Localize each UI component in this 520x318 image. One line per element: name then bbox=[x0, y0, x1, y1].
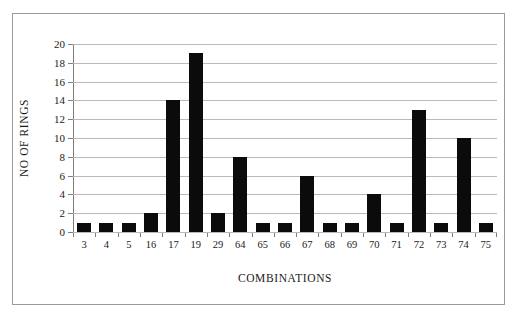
x-tick-mark bbox=[385, 233, 386, 237]
x-tick-label: 71 bbox=[391, 239, 402, 250]
y-tick-mark bbox=[68, 44, 73, 45]
bar bbox=[345, 223, 359, 232]
bar bbox=[479, 223, 493, 232]
gridline bbox=[73, 63, 497, 64]
x-tick-mark bbox=[118, 233, 119, 237]
x-tick-label: 67 bbox=[302, 239, 313, 250]
x-tick-mark bbox=[207, 233, 208, 237]
bar bbox=[211, 213, 225, 232]
chart-figure: NO OF RINGS 02468101214161820 3451617192… bbox=[0, 0, 520, 318]
x-tick-label: 29 bbox=[213, 239, 224, 250]
gridline bbox=[73, 138, 497, 139]
y-tick-label: 0 bbox=[60, 226, 66, 238]
y-tick-mark bbox=[68, 138, 73, 139]
y-tick-label: 14 bbox=[54, 94, 65, 106]
y-tick-label: 10 bbox=[54, 132, 65, 144]
bar bbox=[256, 223, 270, 232]
gridline bbox=[73, 119, 497, 120]
bar bbox=[323, 223, 337, 232]
x-tick-mark bbox=[408, 233, 409, 237]
y-axis-title: NO OF RINGS bbox=[18, 99, 30, 177]
bar bbox=[278, 223, 292, 232]
bar bbox=[77, 223, 91, 232]
x-tick-label: 69 bbox=[347, 239, 358, 250]
x-tick-label: 4 bbox=[104, 239, 109, 250]
x-tick-mark bbox=[274, 233, 275, 237]
x-tick-label: 66 bbox=[280, 239, 291, 250]
y-tick-mark bbox=[68, 194, 73, 195]
bar bbox=[390, 223, 404, 232]
y-tick-label: 2 bbox=[60, 207, 66, 219]
gridline bbox=[73, 100, 497, 101]
x-tick-mark bbox=[73, 233, 74, 237]
x-axis-ticks-and-labels: 34516171929646566676869707172737475 bbox=[73, 233, 497, 257]
bar bbox=[189, 53, 203, 232]
y-tick-mark bbox=[68, 213, 73, 214]
x-tick-mark bbox=[252, 233, 253, 237]
bar bbox=[99, 223, 113, 232]
x-tick-mark bbox=[475, 233, 476, 237]
bar bbox=[434, 223, 448, 232]
x-axis-title: COMBINATIONS bbox=[73, 272, 497, 284]
bar bbox=[144, 213, 158, 232]
y-tick-label: 16 bbox=[54, 76, 65, 88]
bar bbox=[233, 157, 247, 232]
x-tick-mark bbox=[185, 233, 186, 237]
x-tick-mark bbox=[95, 233, 96, 237]
bar bbox=[300, 176, 314, 232]
x-tick-label: 17 bbox=[168, 239, 179, 250]
bar bbox=[412, 110, 426, 232]
x-tick-mark bbox=[296, 233, 297, 237]
x-tick-mark bbox=[229, 233, 230, 237]
x-tick-mark bbox=[140, 233, 141, 237]
x-tick-label: 3 bbox=[82, 239, 87, 250]
x-tick-label: 75 bbox=[481, 239, 492, 250]
x-tick-label: 19 bbox=[190, 239, 201, 250]
x-tick-mark bbox=[430, 233, 431, 237]
x-tick-mark bbox=[452, 233, 453, 237]
y-tick-label: 4 bbox=[60, 188, 66, 200]
gridline bbox=[73, 44, 497, 45]
plot-area: 02468101214161820 bbox=[73, 44, 497, 232]
x-tick-label: 72 bbox=[414, 239, 425, 250]
x-tick-mark bbox=[363, 233, 364, 237]
x-tick-label: 70 bbox=[369, 239, 380, 250]
y-tick-label: 8 bbox=[60, 151, 66, 163]
y-tick-label: 20 bbox=[54, 38, 65, 50]
y-tick-mark bbox=[68, 100, 73, 101]
gridline bbox=[73, 176, 497, 177]
gridline bbox=[73, 157, 497, 158]
x-tick-mark bbox=[318, 233, 319, 237]
y-tick-mark bbox=[68, 82, 73, 83]
x-tick-mark bbox=[496, 233, 497, 237]
bar bbox=[166, 100, 180, 232]
gridline bbox=[73, 194, 497, 195]
y-tick-mark bbox=[68, 176, 73, 177]
y-tick-mark bbox=[68, 157, 73, 158]
x-tick-label: 68 bbox=[324, 239, 335, 250]
y-tick-label: 18 bbox=[54, 57, 65, 69]
x-tick-label: 16 bbox=[146, 239, 157, 250]
y-tick-label: 6 bbox=[60, 170, 66, 182]
x-tick-label: 73 bbox=[436, 239, 447, 250]
y-tick-label: 12 bbox=[54, 113, 65, 125]
x-tick-mark bbox=[341, 233, 342, 237]
x-tick-label: 65 bbox=[257, 239, 268, 250]
bar bbox=[122, 223, 136, 232]
gridline bbox=[73, 213, 497, 214]
gridline bbox=[73, 82, 497, 83]
x-tick-mark bbox=[162, 233, 163, 237]
y-tick-mark bbox=[68, 119, 73, 120]
y-tick-mark bbox=[68, 63, 73, 64]
bar bbox=[367, 194, 381, 232]
x-tick-label: 5 bbox=[126, 239, 131, 250]
x-tick-label: 74 bbox=[458, 239, 469, 250]
x-tick-label: 64 bbox=[235, 239, 246, 250]
bar bbox=[457, 138, 471, 232]
